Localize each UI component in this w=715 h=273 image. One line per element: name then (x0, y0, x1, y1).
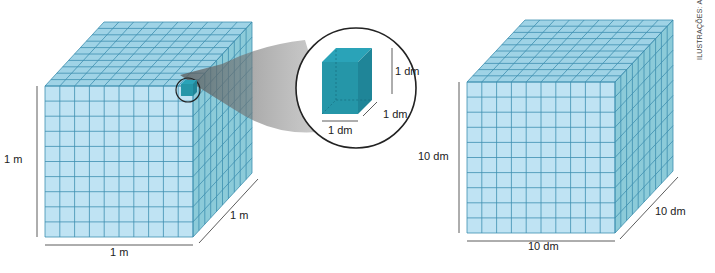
small-highlight-cube (181, 80, 197, 96)
right-cube-depth-label: 10 dm (655, 205, 686, 217)
diagram-canvas (0, 0, 715, 273)
left-cube-width-label: 1 m (110, 246, 128, 258)
right-cube-width-label: 10 dm (528, 240, 559, 252)
left-cube-depth-label: 1 m (230, 209, 248, 221)
illustration-credit: ILUSTRAÇÕES: ADILSON SECCO (696, 0, 703, 60)
inset-width-label: 1 dm (328, 124, 352, 136)
left-cube-height-label: 1 m (4, 153, 22, 165)
inset-depth-label: 1 dm (383, 108, 407, 120)
right-cube-height-label: 10 dm (418, 150, 449, 162)
right-cube-10dm (467, 20, 673, 233)
left-cube-1m (45, 22, 252, 237)
zoom-inset-1dm (296, 28, 416, 148)
inset-height-label: 1 dm (395, 65, 419, 77)
